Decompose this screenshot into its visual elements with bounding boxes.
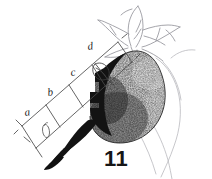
scale-rung-1	[46, 105, 60, 127]
figure-illustration-panel: a b c d 11	[0, 0, 212, 179]
scale-label-d: d	[87, 39, 95, 52]
scale-label-c: c	[70, 65, 77, 78]
scale-rung-2	[69, 85, 83, 107]
small-loop-mark	[42, 123, 51, 138]
figure-number: 11	[104, 146, 128, 171]
figure-vector-canvas: a b c d 11	[0, 0, 212, 179]
dark-beak-tip	[44, 155, 64, 170]
scale-label-a: a	[24, 105, 32, 118]
scale-label-b: b	[47, 85, 55, 98]
